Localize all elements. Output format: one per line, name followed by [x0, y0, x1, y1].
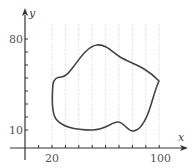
- y-axis-label: y: [28, 7, 36, 20]
- x-tick-label-20: 20: [45, 152, 59, 165]
- closed-curve-diagram: y x 20 100 80 10: [0, 0, 195, 167]
- x-axis-label: x: [178, 131, 185, 144]
- closed-curve: [52, 45, 159, 131]
- y-axis-arrow-icon: [22, 8, 28, 16]
- y-tick-label-80: 80: [9, 33, 23, 46]
- vertical-gridlines: [52, 24, 159, 148]
- diagram-canvas: y x 20 100 80 10: [0, 0, 195, 167]
- x-tick-label-100: 100: [150, 152, 171, 165]
- y-tick-label-10: 10: [9, 124, 23, 137]
